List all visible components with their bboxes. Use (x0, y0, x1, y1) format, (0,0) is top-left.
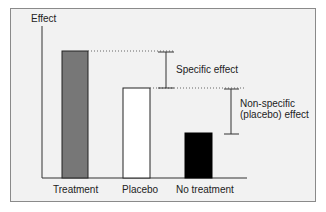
annotation-specific-effect: Specific effect (176, 64, 238, 76)
bar-no-treatment (185, 133, 212, 178)
category-label-placebo: Placebo (122, 184, 158, 196)
bar-placebo (123, 88, 150, 178)
bracket-specific (158, 52, 174, 88)
annotation-nonspecific-line2: (placebo) effect (240, 109, 309, 121)
category-label-no-treatment: No treatment (176, 184, 234, 196)
bracket-nonspecific (224, 89, 239, 134)
category-label-treatment: Treatment (53, 184, 98, 196)
bar-treatment (62, 51, 88, 178)
y-axis-label: Effect (31, 13, 56, 25)
